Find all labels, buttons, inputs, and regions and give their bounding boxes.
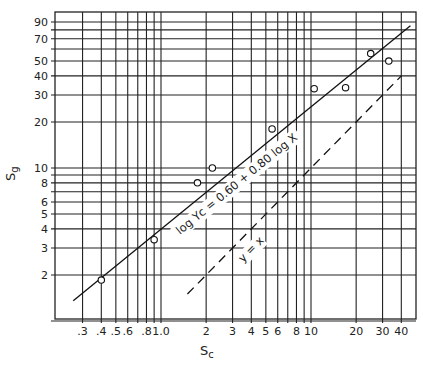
data-point (386, 58, 392, 64)
y-tick-label: 10 (34, 162, 48, 175)
y-tick-label: 70 (34, 33, 48, 46)
data-point (98, 277, 104, 283)
y-tick-label: 8 (41, 177, 48, 190)
x-tick-label: 20 (349, 325, 363, 338)
y-axis-ticks: 23456810203040507090 (34, 16, 48, 282)
data-point (209, 165, 215, 171)
x-tick-label: .6 (122, 325, 133, 338)
y-axis-label: Sg (3, 166, 20, 181)
data-point (269, 126, 275, 132)
x-tick-label: .4 (96, 325, 107, 338)
y-tick-label: 40 (34, 70, 48, 83)
x-tick-label: 5 (262, 325, 269, 338)
x-tick-label: 4 (248, 325, 255, 338)
x-tick-label: 2 (203, 325, 210, 338)
regression-equation-label: log Yc = 0.60 + 0.80 log X (173, 130, 300, 237)
x-axis-ticks: .3.4.5.6.81.023456810203040 (77, 325, 408, 338)
y-tick-label: 4 (41, 223, 48, 236)
data-point (367, 50, 373, 56)
data-point (194, 180, 200, 186)
annotations: log Yc = 0.60 + 0.80 log Xy = x (170, 128, 303, 268)
x-tick-label: .5 (111, 325, 122, 338)
x-tick-label: 30 (376, 325, 390, 338)
x-tick-label: .8 (141, 325, 152, 338)
data-point (151, 236, 157, 242)
x-tick-label: 1.0 (152, 325, 170, 338)
identity-line (187, 76, 401, 294)
x-tick-label: 3 (229, 325, 236, 338)
x-tick-label: 40 (394, 325, 408, 338)
y-tick-label: 30 (34, 89, 48, 102)
y-tick-label: 6 (41, 196, 48, 209)
y-tick-label: 2 (41, 269, 48, 282)
grid (51, 12, 416, 323)
y-tick-label: 50 (34, 55, 48, 68)
x-axis-label: Sc (200, 343, 214, 360)
y-tick-label: 20 (34, 116, 48, 129)
x-tick-label: 6 (274, 325, 281, 338)
y-tick-label: 5 (41, 208, 48, 221)
data-point (311, 85, 317, 91)
y-tick-label: 90 (34, 16, 48, 29)
plot-frame (55, 12, 416, 319)
y-tick-label: 3 (41, 242, 48, 255)
x-tick-label: .3 (77, 325, 88, 338)
data-point (342, 84, 348, 90)
x-tick-label: 8 (293, 325, 300, 338)
log-log-chart: 23456810203040507090 .3.4.5.6.81.0234568… (0, 0, 423, 372)
x-tick-label: 10 (304, 325, 318, 338)
